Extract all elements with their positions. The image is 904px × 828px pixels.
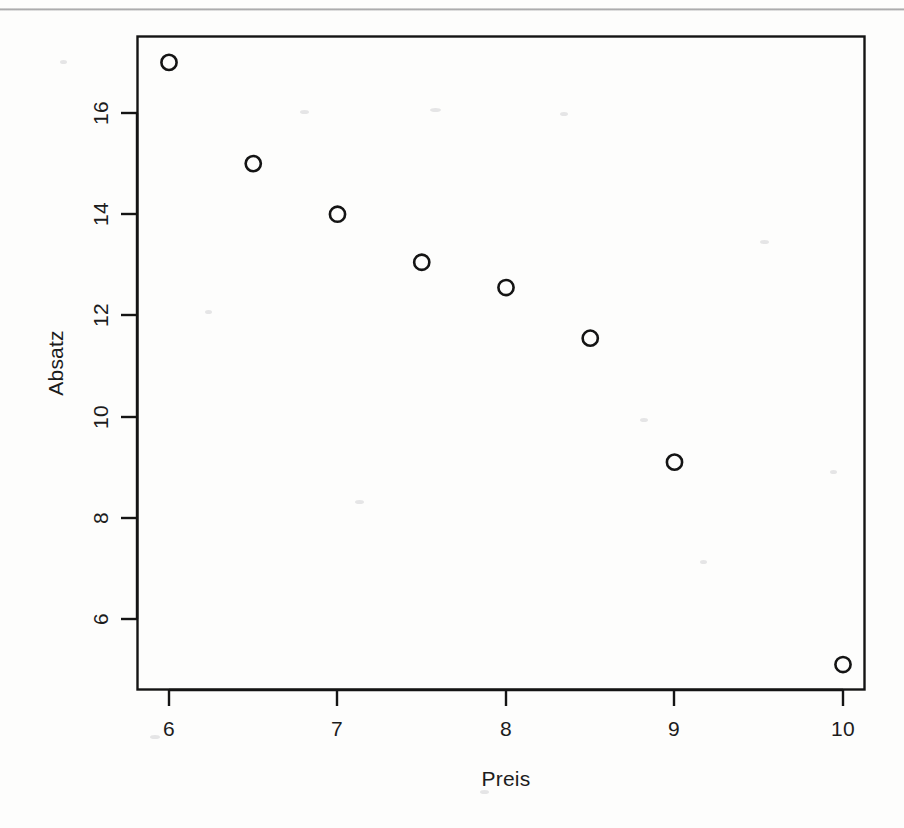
x-tick-label: 9 [668,717,680,741]
data-point [667,455,682,470]
y-tick-label: 16 [89,101,113,125]
y-axis [121,113,137,619]
data-point [161,55,176,70]
data-point [246,156,261,171]
x-axis-title: Preis [482,767,531,791]
data-point [835,657,850,672]
data-point [583,331,598,346]
data-point [330,207,345,222]
y-tick-label: 6 [89,613,113,625]
scatter-plot [0,0,904,828]
y-tick-label: 14 [89,202,113,226]
y-tick-label: 10 [89,405,113,429]
x-tick-label: 6 [163,717,175,741]
y-tick-label: 8 [89,512,113,524]
scanned-page: 6 7 8 9 10 16 14 12 10 8 6 Preis Absatz [0,0,904,828]
x-axis [169,690,843,706]
y-tick-label: 12 [89,303,113,327]
x-tick-label: 10 [831,717,855,741]
data-point-group [161,55,850,672]
x-tick-label: 7 [331,717,343,741]
x-tick-label: 8 [500,717,512,741]
data-point [414,255,429,270]
plot-frame [138,37,865,690]
data-point [498,280,513,295]
y-axis-title: Absatz [44,330,68,395]
